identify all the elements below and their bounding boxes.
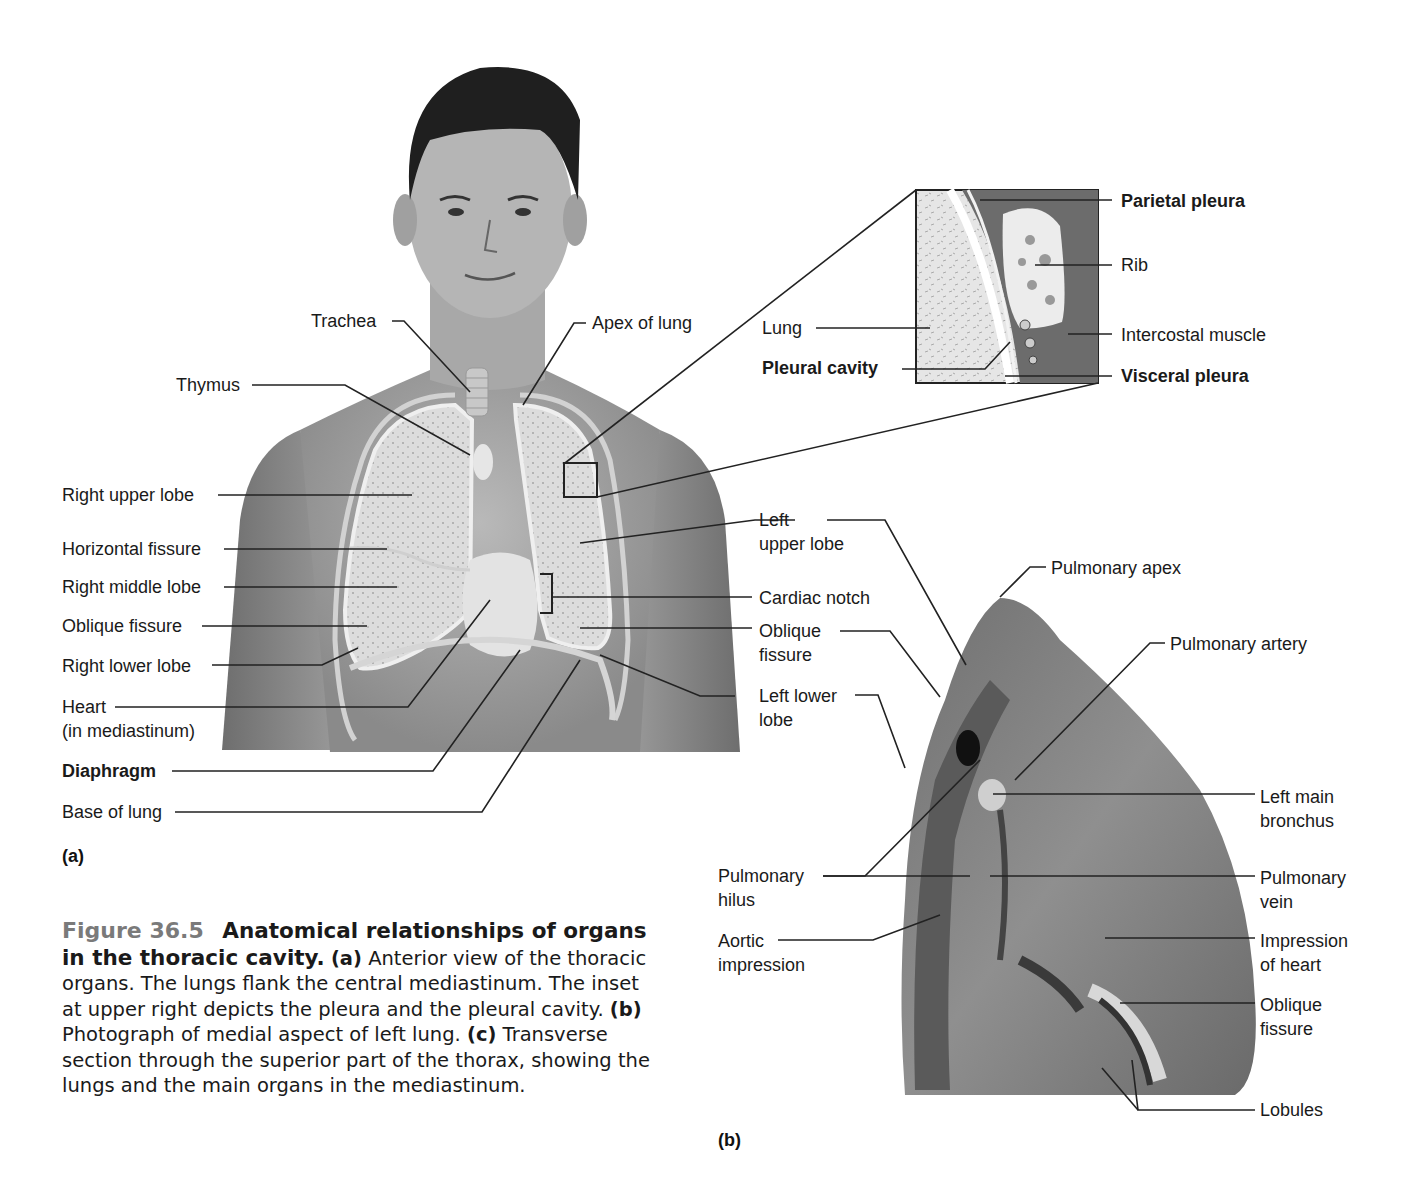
label-right-lower-lobe: Right lower lobe (62, 654, 191, 678)
panel-a-letter: (a) (62, 846, 84, 867)
label-apex-of-lung: Apex of lung (592, 311, 692, 335)
label-lobules: Lobules (1260, 1098, 1323, 1122)
label-cardiac-notch: Cardiac notch (759, 586, 870, 610)
label-intercostal-muscle: Intercostal muscle (1121, 323, 1266, 347)
torso-illustration (222, 67, 740, 752)
label-parietal-pleura: Parietal pleura (1121, 189, 1245, 213)
label-impression-of-heart: Impression of heart (1260, 929, 1348, 977)
caption-b-text: Photograph of medial aspect of left lung… (62, 1023, 467, 1046)
label-heart: Heart (in mediastinum) (62, 695, 195, 743)
label-lung: Lung (762, 316, 802, 340)
panel-b-letter: (b) (718, 1130, 741, 1151)
label-right-upper-lobe: Right upper lobe (62, 483, 194, 507)
label-aortic-impression: Aortic impression (718, 929, 805, 977)
label-pulmonary-artery: Pulmonary artery (1170, 632, 1307, 656)
label-pulmonary-apex: Pulmonary apex (1051, 556, 1181, 580)
label-oblique-fissure-b: Oblique fissure (1260, 993, 1322, 1041)
label-left-main-bronchus: Left main bronchus (1260, 785, 1334, 833)
label-left-lower-lobe: Left lower lobe (759, 684, 837, 732)
label-pleural-cavity: Pleural cavity (762, 356, 878, 380)
label-visceral-pleura: Visceral pleura (1121, 364, 1249, 388)
caption-a-label: (a) (331, 947, 362, 970)
label-pulmonary-hilus: Pulmonary hilus (718, 864, 804, 912)
caption-c-label: (c) (467, 1023, 496, 1046)
figure-caption: Figure 36.5 Anatomical relationships of … (62, 918, 652, 1099)
label-horizontal-fissure: Horizontal fissure (62, 537, 201, 561)
lung-photo (902, 598, 1256, 1095)
caption-b-label: (b) (610, 998, 642, 1021)
label-thymus: Thymus (176, 373, 240, 397)
label-rib: Rib (1121, 253, 1148, 277)
label-trachea: Trachea (311, 309, 376, 333)
label-base-of-lung: Base of lung (62, 800, 162, 824)
label-diaphragm: Diaphragm (62, 759, 156, 783)
label-pulmonary-vein: Pulmonary vein (1260, 866, 1346, 914)
label-left-upper-lobe: Left upper lobe (759, 508, 844, 556)
label-oblique-fissure: Oblique fissure (62, 614, 182, 638)
figure-number: Figure 36.5 (62, 918, 204, 943)
label-oblique-fissure-left: Oblique fissure (759, 619, 821, 667)
label-right-middle-lobe: Right middle lobe (62, 575, 201, 599)
